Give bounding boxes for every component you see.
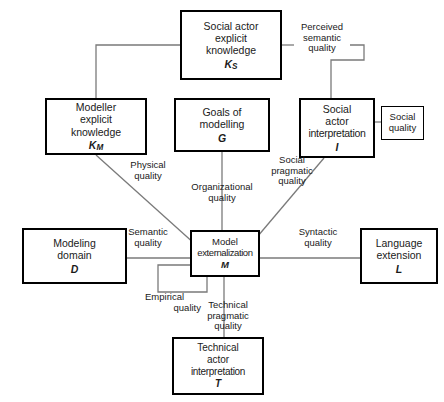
edge-label-perceived-semantic-quality: Perceived semantic quality xyxy=(293,22,351,54)
node-modeller-explicit-knowledge[interactable]: Modeller explicit knowledge KM xyxy=(45,98,147,155)
node-line: Goals of xyxy=(202,106,241,118)
diagram-canvas: Social actor explicit knowledge KS Model… xyxy=(0,0,444,402)
connector-ks-km xyxy=(96,45,180,98)
node-line: Language xyxy=(376,237,423,249)
edge-label-syntactic-quality: Syntactic quality xyxy=(288,227,348,248)
node-symbol: G xyxy=(218,132,226,145)
node-line: Social xyxy=(323,103,352,115)
annotation-social-quality[interactable]: Social quality xyxy=(381,106,424,140)
node-line: Social actor xyxy=(204,20,259,32)
annotation-line: quality xyxy=(389,123,416,134)
edge-label-empirical-quality: Empirical quality xyxy=(145,292,201,313)
node-symbol: T xyxy=(215,378,221,390)
node-line: Modeller xyxy=(76,101,116,113)
edge-label-physical-quality: Physical quality xyxy=(120,160,176,181)
node-line: interpretation xyxy=(191,366,245,378)
edge-label-line: quality xyxy=(262,176,322,187)
node-line: explicit xyxy=(215,32,247,44)
node-line: knowledge xyxy=(206,44,256,56)
node-line: explicit xyxy=(80,113,112,125)
node-line: extension xyxy=(377,249,422,261)
edge-label-social-pragmatic-quality: Social pragmatic quality xyxy=(262,155,322,187)
node-line: knowledge xyxy=(71,126,121,138)
node-line: interpretation xyxy=(308,127,365,139)
node-language-extension[interactable]: Language extension L xyxy=(360,228,438,284)
edge-label-line: quality xyxy=(183,193,261,204)
node-symbol: M xyxy=(221,259,229,271)
edge-label-technical-pragmatic-quality: Technical pragmatic quality xyxy=(199,300,257,332)
node-line: Technical xyxy=(197,342,239,354)
edge-label-line: quality xyxy=(288,238,348,249)
node-symbol: KS xyxy=(224,58,237,71)
edge-label-line: quality xyxy=(145,303,201,314)
node-model-externalization[interactable]: Model externalization M xyxy=(190,230,260,277)
edge-label-line: quality xyxy=(120,171,176,182)
node-line: actor xyxy=(325,115,348,127)
edge-label-line: quality xyxy=(118,238,178,249)
edge-label-line: quality xyxy=(293,43,351,54)
node-goals-of-modelling[interactable]: Goals of modelling G xyxy=(174,98,270,152)
node-symbol: I xyxy=(336,141,339,154)
node-symbol: KM xyxy=(89,139,103,152)
node-line: modelling xyxy=(200,118,245,130)
node-symbol: L xyxy=(396,263,402,276)
node-technical-actor-interpretation[interactable]: Technical actor interpretation T xyxy=(172,337,264,395)
node-line: Modeling xyxy=(53,237,96,249)
node-line: actor xyxy=(207,354,229,366)
node-symbol: D xyxy=(71,263,79,276)
node-line: externalization xyxy=(197,247,252,258)
node-social-actor-interpretation[interactable]: Social actor interpretation I xyxy=(299,98,375,158)
edge-label-line: quality xyxy=(199,321,257,332)
edge-label-organizational-quality: Organizational quality xyxy=(183,182,261,203)
edge-label-semantic-quality: Semantic quality xyxy=(118,227,178,248)
node-modeling-domain[interactable]: Modeling domain D xyxy=(22,228,127,284)
node-line: domain xyxy=(57,249,91,261)
node-line: Model xyxy=(212,236,238,247)
node-social-actor-explicit-knowledge[interactable]: Social actor explicit knowledge KS xyxy=(180,10,282,80)
